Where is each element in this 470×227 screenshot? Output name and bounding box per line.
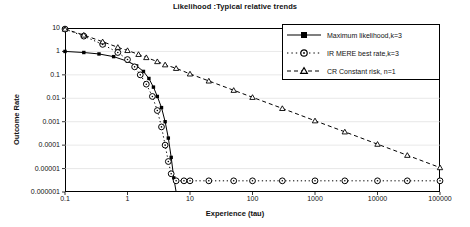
data-point-marker [231, 178, 237, 184]
data-point-marker [375, 178, 381, 184]
y-tick-label: 0.1 [4, 71, 60, 79]
data-point-marker [280, 106, 285, 111]
data-point-marker [159, 124, 165, 130]
data-point-marker [342, 178, 348, 184]
legend-swatch-solid-square [283, 26, 327, 44]
data-point-marker [137, 72, 143, 78]
x-tick-label: 0.1 [35, 195, 95, 203]
legend-swatch-dotted-circle [283, 44, 327, 62]
data-point-marker [160, 106, 163, 109]
data-point-marker [162, 62, 167, 67]
data-point-marker [206, 78, 211, 83]
y-axis-label: Outcome Rate [12, 94, 21, 145]
x-axis-label: Experience (tau) [0, 209, 470, 218]
legend-item-maximum-likelihood[interactable]: Maximum likelihood,k=3 [283, 26, 441, 44]
data-point-marker [125, 57, 131, 63]
data-point-marker [136, 52, 141, 57]
data-point-marker [312, 118, 317, 123]
data-point-marker [168, 171, 174, 177]
data-point-marker [132, 64, 138, 70]
legend-item-ir-mere[interactable]: IR MERE best rate,k=3 [283, 44, 441, 62]
legend-swatch-dashed-triangle [283, 62, 327, 80]
data-point-marker [162, 142, 168, 148]
data-point-marker [181, 178, 187, 184]
x-tick-label: 1 [98, 195, 158, 203]
x-tick-label: 10000 [348, 195, 408, 203]
data-point-marker [115, 45, 120, 50]
data-point-marker [152, 85, 155, 88]
chart-figure: Likelihood :Typical relative trends 1010… [0, 0, 470, 227]
y-tick-label: 10 [4, 24, 60, 32]
data-point-marker [167, 136, 170, 139]
data-point-marker [143, 81, 149, 87]
data-point-marker [147, 77, 150, 80]
data-point-marker [187, 71, 192, 76]
data-point-marker [250, 178, 256, 184]
data-point-marker [156, 95, 159, 98]
x-tick-label: 1000 [285, 195, 345, 203]
legend-label: Maximum likelihood,k=3 [327, 32, 402, 39]
data-point-marker [173, 178, 179, 184]
data-point-marker [279, 178, 285, 184]
y-tick-label: 0.00001 [4, 165, 60, 173]
data-point-marker [173, 66, 178, 71]
data-point-marker [149, 94, 155, 100]
data-point-marker [165, 159, 171, 165]
data-point-marker [97, 52, 100, 55]
data-point-marker [115, 50, 121, 56]
data-point-marker [404, 178, 410, 184]
x-tick-label: 100000 [410, 195, 470, 203]
data-point-marker [206, 178, 212, 184]
legend: Maximum likelihood,k=3 IR MERE best rate… [282, 24, 440, 80]
data-point-marker [437, 178, 443, 184]
x-tick-label: 100 [223, 195, 283, 203]
legend-label: CR Constant risk, n=1 [327, 68, 396, 75]
legend-item-cr-constant-risk[interactable]: CR Constant risk, n=1 [283, 62, 441, 80]
x-tick-label: 10 [160, 195, 220, 203]
data-point-marker [82, 51, 85, 54]
data-point-marker [154, 108, 160, 114]
legend-label: IR MERE best rate,k=3 [327, 50, 399, 57]
data-point-marker [312, 178, 318, 184]
y-tick-label: 1 [4, 47, 60, 55]
data-point-marker [163, 120, 166, 123]
data-point-marker [187, 178, 193, 184]
data-point-marker [405, 153, 410, 158]
data-point-marker [155, 59, 160, 64]
data-point-marker [112, 55, 115, 58]
data-point-marker [437, 165, 442, 170]
